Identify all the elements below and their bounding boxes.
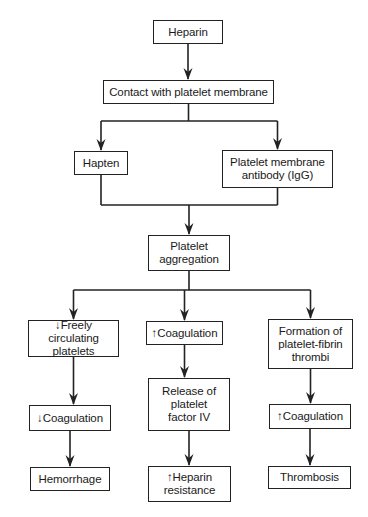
node-hemorrhage: Hemorrhage <box>30 467 110 491</box>
node-label: Platelet membraneantibody (IgG) <box>230 156 325 182</box>
node-label: Thrombosis <box>280 471 339 484</box>
node-coag-down: ↓Coagulation <box>29 405 111 431</box>
node-label: Release ofplateletfactor IV <box>162 385 216 424</box>
node-contact: Contact with platelet membrane <box>103 80 274 104</box>
node-antibody: Platelet membraneantibody (IgG) <box>222 150 333 188</box>
node-aggregation: Plateletaggregation <box>148 235 230 271</box>
heparin-induced-thrombocytopenia-flowchart: HeparinContact with platelet membraneHap… <box>0 0 368 517</box>
node-formation: Formation ofplatelet-fibrinthrombi <box>268 319 353 369</box>
node-label: Hapten <box>83 157 119 170</box>
node-thrombosis: Thrombosis <box>268 466 351 489</box>
node-heparin-resistance: ↑Heparinresistance <box>148 466 231 502</box>
node-label: Contact with platelet membrane <box>109 86 268 99</box>
node-coag-up-right: ↑Coagulation <box>269 404 351 429</box>
node-label: Plateletaggregation <box>159 240 219 266</box>
node-label: ↑Coagulation <box>152 327 218 340</box>
node-label: ↓Freely circulatingplatelets <box>32 319 115 358</box>
node-freely: ↓Freely circulatingplatelets <box>28 320 119 357</box>
node-label: ↑Heparinresistance <box>164 471 215 497</box>
node-label: Hemorrhage <box>39 473 102 486</box>
node-label: Formation ofplatelet-fibrinthrombi <box>278 325 342 364</box>
node-label: ↓Coagulation <box>37 412 103 425</box>
node-coag-up-mid: ↑Coagulation <box>146 321 223 345</box>
node-heparin: Heparin <box>153 20 223 44</box>
node-release: Release ofplateletfactor IV <box>148 378 230 431</box>
node-hapten: Hapten <box>74 151 128 175</box>
node-label: ↑Coagulation <box>277 410 343 423</box>
node-label: Heparin <box>168 26 208 39</box>
